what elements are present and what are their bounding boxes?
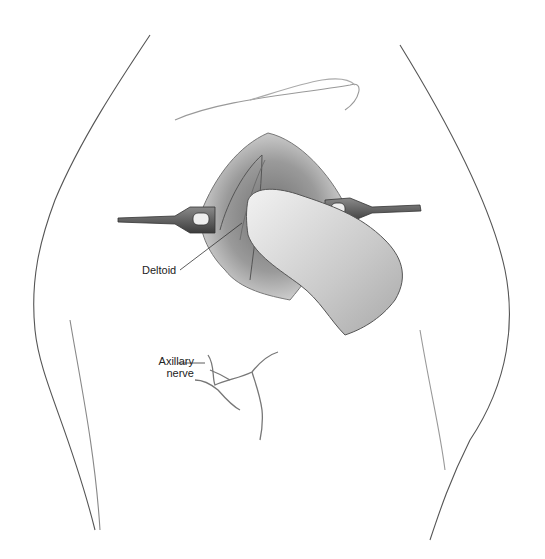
shoulder-surgery-illustration: [0, 0, 545, 559]
axillary-nerve-label-line1: Axillary: [134, 355, 194, 367]
axillary-nerve-label-line2: nerve: [134, 367, 194, 379]
axillary-nerve-label: Axillary nerve: [134, 355, 194, 379]
retractor-left: [118, 207, 215, 233]
axillary-nerve: [195, 352, 278, 440]
deltoid-label: Deltoid: [142, 264, 176, 276]
